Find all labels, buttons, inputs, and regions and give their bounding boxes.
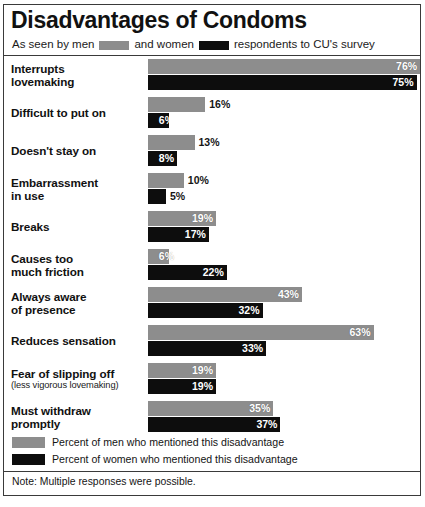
bar-row-label-line1: Doesn't stay on — [11, 144, 147, 157]
bar-value-men: 13% — [199, 135, 220, 150]
bar-men-wrapper: 35% — [148, 401, 420, 416]
bar-row: Fear of slipping off(less vigorous lovem… — [4, 360, 420, 398]
bar-row-label: Causes toomuch friction — [11, 246, 147, 284]
subtitle-text-before-men: As seen by men — [12, 38, 94, 50]
bar-row-label: Fear of slipping off(less vigorous lovem… — [11, 360, 147, 398]
bar-row-label-line1: Always aware — [11, 290, 147, 303]
legend-swatch-men-inline — [99, 41, 129, 50]
bar-men[interactable] — [148, 325, 374, 340]
bar-value-women: 22% — [200, 265, 224, 280]
bar-value-women: 37% — [253, 417, 277, 432]
bar-value-men: 19% — [189, 211, 213, 226]
bar-row-label: Embarrassmentin use — [11, 170, 147, 208]
bar-group: 10%5% — [148, 173, 420, 205]
chart-frame: Disadvantages of Condoms As seen by men … — [3, 4, 421, 496]
bar-row: Interruptslovemaking76%75% — [4, 56, 420, 94]
bar-row: Embarrassmentin use10%5% — [4, 170, 420, 208]
bar-row: Causes toomuch friction6%22% — [4, 246, 420, 284]
bar-group: 19%17% — [148, 211, 420, 243]
bar-women-wrapper: 17% — [148, 227, 420, 242]
chart-page: Disadvantages of Condoms As seen by men … — [0, 0, 425, 507]
bar-row: Difficult to put on16%6% — [4, 94, 420, 132]
bar-value-women: 8% — [150, 151, 174, 166]
bar-row-label-line1: Fear of slipping off — [11, 367, 147, 380]
bar-group: 19%19% — [148, 363, 420, 395]
legend-swatch-men — [12, 437, 45, 448]
bar-value-women: 5% — [170, 189, 185, 204]
bar-row-label-line2: in use — [11, 189, 147, 202]
bar-row-label-line1: Reduces sensation — [11, 334, 147, 347]
bar-women-wrapper: 37% — [148, 417, 420, 432]
bar-men-wrapper: 19% — [148, 211, 420, 226]
bar-row-label: Always awareof presence — [11, 284, 147, 322]
bar-row: Doesn't stay on13%8% — [4, 132, 420, 170]
bar-women-wrapper: 22% — [148, 265, 420, 280]
bar-women-wrapper: 75% — [148, 75, 420, 90]
bar-men[interactable] — [148, 97, 205, 112]
bar-women-wrapper: 33% — [148, 341, 420, 356]
bar-men[interactable] — [148, 59, 420, 74]
bar-row: Breaks19%17% — [4, 208, 420, 246]
bar-row-label: Difficult to put on — [11, 94, 147, 132]
bar-row-label-line1: Causes too — [11, 252, 147, 265]
bar-value-men: 19% — [189, 363, 213, 378]
bar-value-men: 76% — [393, 59, 417, 74]
bar-row: Must withdrawpromptly35%37% — [4, 398, 420, 436]
legend-swatch-women — [12, 454, 45, 465]
bar-women[interactable] — [148, 75, 417, 90]
bar-men[interactable] — [148, 173, 184, 188]
bar-women-wrapper: 8% — [148, 151, 420, 166]
legend-label-women: Percent of women who mentioned this disa… — [52, 453, 298, 465]
bar-men[interactable] — [148, 135, 195, 150]
bar-value-men: 63% — [347, 325, 371, 340]
bar-row-label-line2: of presence — [11, 303, 147, 316]
bar-men-wrapper: 76% — [148, 59, 420, 74]
bar-value-men: 43% — [275, 287, 299, 302]
bar-row: Reduces sensation63%33% — [4, 322, 420, 360]
note-divider — [4, 471, 420, 472]
bar-men-wrapper: 16% — [148, 97, 420, 112]
bar-group: 16%6% — [148, 97, 420, 129]
chart-header: Disadvantages of Condoms As seen by men … — [4, 5, 420, 55]
bar-women-wrapper: 5% — [148, 189, 420, 204]
bar-men-wrapper: 63% — [148, 325, 420, 340]
bar-row-label-line1: Must withdraw — [11, 404, 147, 417]
bar-value-women: 33% — [239, 341, 263, 356]
bar-value-women: 17% — [182, 227, 206, 242]
bar-value-men: 6% — [150, 249, 174, 264]
bar-plot-area: Interruptslovemaking76%75%Difficult to p… — [4, 56, 420, 495]
page-title: Disadvantages of Condoms — [11, 7, 307, 34]
bar-group: 63%33% — [148, 325, 420, 357]
legend-swatch-women-inline — [199, 41, 229, 50]
bar-row-label: Breaks — [11, 208, 147, 246]
bar-group: 35%37% — [148, 401, 420, 433]
bar-row-label-line1: Interrupts — [11, 62, 147, 75]
bar-value-men: 10% — [188, 173, 209, 188]
chart-footer: Percent of men who mentioned this disadv… — [4, 433, 420, 495]
bar-group: 76%75% — [148, 59, 420, 91]
bar-row: Always awareof presence43%32% — [4, 284, 420, 322]
bar-row-label-line1: Embarrassment — [11, 176, 147, 189]
bar-value-men: 35% — [246, 401, 270, 416]
legend-item-men: Percent of men who mentioned this disadv… — [12, 436, 284, 448]
bar-value-men: 16% — [209, 97, 230, 112]
bar-row-label-line2: promptly — [11, 417, 147, 430]
bar-row-label-line2: lovemaking — [11, 75, 147, 88]
bar-row-label: Doesn't stay on — [11, 132, 147, 170]
bar-value-women: 6% — [150, 113, 174, 128]
legend-label-men: Percent of men who mentioned this disadv… — [52, 436, 284, 448]
bar-value-women: 32% — [236, 303, 260, 318]
bar-women-wrapper: 32% — [148, 303, 420, 318]
bar-value-women: 19% — [189, 379, 213, 394]
bar-men-wrapper: 6% — [148, 249, 420, 264]
bar-row-label-line1: Difficult to put on — [11, 106, 147, 119]
bar-women[interactable] — [148, 189, 166, 204]
bar-row-sublabel: (less vigorous lovemaking) — [11, 380, 147, 391]
chart-note: Note: Multiple responses were possible. — [12, 476, 196, 487]
bar-group: 6%22% — [148, 249, 420, 281]
bar-men-wrapper: 13% — [148, 135, 420, 150]
bar-group: 13%8% — [148, 135, 420, 167]
bar-group: 43%32% — [148, 287, 420, 319]
bar-women-wrapper: 6% — [148, 113, 420, 128]
bar-row-label-line1: Breaks — [11, 220, 147, 233]
